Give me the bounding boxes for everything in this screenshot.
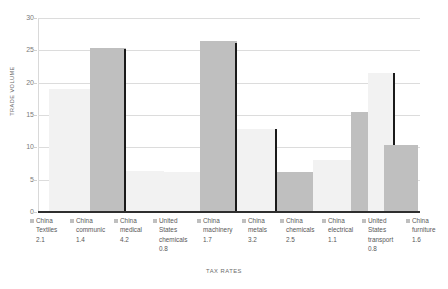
legend-item-10[interactable]: China furniture 1.6 xyxy=(406,216,446,244)
bar-4 xyxy=(164,172,200,212)
y-tick-mark-20 xyxy=(33,83,37,84)
x-axis-line xyxy=(38,211,420,213)
legend-item-label: China chemicals 2.5 xyxy=(286,216,314,244)
y-tick-mark-30 xyxy=(33,18,37,19)
y-tick-label-10: 10 xyxy=(8,143,34,150)
bar-7 xyxy=(277,172,313,212)
y-tick-label-15: 15 xyxy=(8,111,34,118)
legend-swatch-icon xyxy=(280,219,284,223)
bar-8 xyxy=(313,160,351,212)
legend-item-label: China furniture 1.6 xyxy=(412,216,435,244)
legend-item-label: China communic 1.4 xyxy=(76,216,105,244)
legend-item-label: United States transport 0.8 xyxy=(368,216,393,254)
y-tick-label-30: 30 xyxy=(8,14,34,21)
bar-5 xyxy=(200,41,236,212)
y-tick-mark-25 xyxy=(33,50,37,51)
plot-area xyxy=(38,18,420,212)
x-axis-title: TAX RATES xyxy=(0,268,448,274)
legend-item-6[interactable]: China metals 3.2 xyxy=(242,216,280,244)
y-tick-label-25: 25 xyxy=(8,46,34,53)
legend-item-label: China medical 4.2 xyxy=(120,216,142,244)
y-tick-label-5: 5 xyxy=(8,176,34,183)
legend-item-label: China Textiles 2.1 xyxy=(36,216,57,244)
legend-item-label: China electrical 1.1 xyxy=(328,216,353,244)
legend-item-label: China metals 3.2 xyxy=(248,216,267,244)
legend-swatch-icon xyxy=(362,219,366,223)
legend-item-label: China machinery 1.7 xyxy=(203,216,232,244)
y-tick-mark-5 xyxy=(33,180,37,181)
y-axis-title: TRADE VOLUME xyxy=(9,51,15,131)
bar-2 xyxy=(90,48,126,212)
y-tick-mark-10 xyxy=(33,147,37,148)
legend-swatch-icon xyxy=(114,219,118,223)
legend-item-9[interactable]: United States transport 0.8 xyxy=(362,216,406,254)
y-tick-label-20: 20 xyxy=(8,79,34,86)
y-tick-label-0: 0 xyxy=(8,208,34,215)
legend-item-4[interactable]: United States chemicals 0.8 xyxy=(153,216,197,254)
legend-swatch-icon xyxy=(322,219,326,223)
bar-3 xyxy=(126,171,164,212)
legend-swatch-icon xyxy=(242,219,246,223)
y-tick-mark-0 xyxy=(33,212,37,213)
legend-item-5[interactable]: China machinery 1.7 xyxy=(197,216,242,244)
legend-swatch-icon xyxy=(30,219,34,223)
legend-item-label: United States chemicals 0.8 xyxy=(159,216,187,254)
legend-item-7[interactable]: China chemicals 2.5 xyxy=(280,216,322,244)
legend-item-3[interactable]: China medical 4.2 xyxy=(114,216,153,244)
bar-chart: TRADE VOLUME 302520151050 China Textiles… xyxy=(0,0,448,289)
chart-title xyxy=(0,0,448,2)
bar-11 xyxy=(384,145,418,212)
legend-item-8[interactable]: China electrical 1.1 xyxy=(322,216,362,244)
legend-item-2[interactable]: China communic 1.4 xyxy=(70,216,114,244)
legend-swatch-icon xyxy=(406,219,410,223)
legend-swatch-icon xyxy=(153,219,157,223)
legend-item-1[interactable]: China Textiles 2.1 xyxy=(30,216,70,244)
bar-1 xyxy=(49,89,89,212)
y-tick-mark-15 xyxy=(33,115,37,116)
legend-swatch-icon xyxy=(70,219,74,223)
legend-swatch-icon xyxy=(197,219,201,223)
category-legend: China Textiles 2.1China communic 1.4Chin… xyxy=(30,216,442,254)
bar-6 xyxy=(237,129,277,212)
gridline-30 xyxy=(38,18,420,19)
